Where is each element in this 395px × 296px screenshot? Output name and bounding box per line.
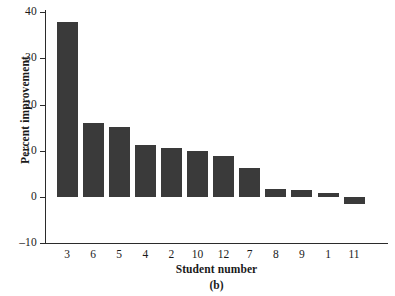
bar xyxy=(57,22,78,197)
x-axis-tick-label: 4 xyxy=(132,248,158,260)
bar xyxy=(135,145,156,197)
bar xyxy=(213,156,234,197)
x-axis-tick-label: 3 xyxy=(54,248,80,260)
bar xyxy=(318,193,339,197)
x-axis-title: Student number xyxy=(45,263,388,275)
x-axis-tick-label: 1 xyxy=(315,248,341,260)
y-axis-tick-label: –10 xyxy=(19,237,37,249)
panel-caption: (b) xyxy=(45,279,388,291)
bar xyxy=(161,148,182,197)
x-axis-tick-label: 2 xyxy=(158,248,184,260)
y-axis-line xyxy=(45,10,46,244)
y-axis-tick-mark xyxy=(40,243,46,244)
bar xyxy=(265,189,286,197)
x-axis-tick-label: 6 xyxy=(80,248,106,260)
x-axis-tick-label: 11 xyxy=(341,248,367,260)
x-axis-tick-label: 5 xyxy=(106,248,132,260)
y-axis-tick-mark xyxy=(40,105,46,106)
y-axis-tick-mark xyxy=(40,58,46,59)
bar xyxy=(239,168,260,197)
x-axis-tick-label: 8 xyxy=(263,248,289,260)
x-axis-tick-label: 7 xyxy=(237,248,263,260)
bar xyxy=(83,123,104,197)
x-axis-tick-label: 12 xyxy=(211,248,237,260)
y-axis-title: Percent improvement xyxy=(19,25,31,195)
bar xyxy=(187,151,208,197)
y-axis-tick-mark xyxy=(40,151,46,152)
y-axis-tick-label: 40 xyxy=(25,6,37,18)
y-axis-tick-mark xyxy=(40,12,46,13)
x-axis-tick-label: 10 xyxy=(185,248,211,260)
y-axis-tick-mark xyxy=(40,197,46,198)
x-axis-tick-label: 9 xyxy=(289,248,315,260)
y-axis-tick-label: 0 xyxy=(31,191,37,203)
bar-chart-figure: –10010203040 365421012789111 Percent imp… xyxy=(0,0,395,296)
bar xyxy=(291,190,312,197)
bar xyxy=(344,197,365,204)
x-axis-line xyxy=(45,243,388,244)
bar xyxy=(109,127,130,197)
